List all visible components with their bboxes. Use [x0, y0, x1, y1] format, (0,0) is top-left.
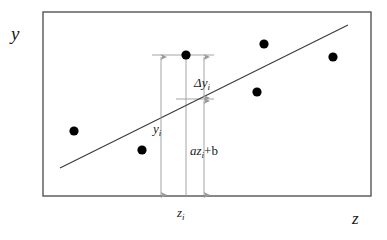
data-point: [181, 50, 190, 59]
plot-frame: [43, 12, 371, 196]
label-delta-yi: Δyi: [194, 76, 210, 92]
label-yi: yi: [153, 122, 161, 138]
regression-diagram: [0, 0, 387, 240]
axis-label-y: y: [11, 24, 19, 43]
label-zi-subscript: i: [182, 212, 185, 222]
label-zi: zi: [177, 206, 185, 222]
label-delta-yi-base: Δy: [194, 75, 207, 90]
data-point: [252, 87, 261, 96]
data-point: [259, 39, 268, 48]
label-yi-subscript: i: [159, 128, 162, 138]
label-azib-plus-b: +b: [204, 143, 218, 158]
data-point: [69, 126, 78, 135]
axis-label-z: z: [352, 210, 359, 227]
data-point: [137, 145, 146, 154]
label-delta-yi-subscript: i: [207, 82, 210, 92]
data-point: [328, 52, 337, 61]
label-azi-plus-b: azi+b: [190, 144, 218, 160]
